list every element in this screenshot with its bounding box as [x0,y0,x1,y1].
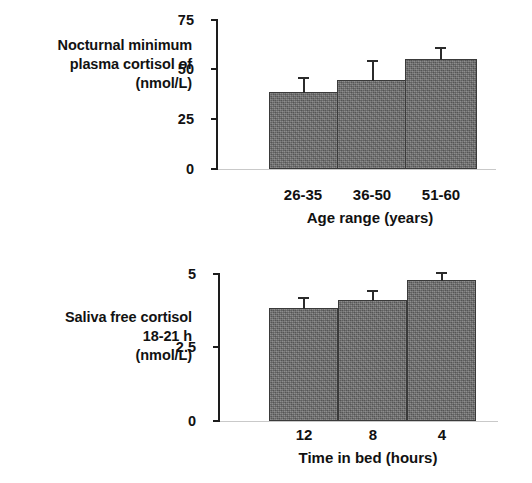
y-axis-caption-line-1: Nocturnal minimum [6,36,192,55]
y-tick-mark [213,346,220,348]
y-tick-label: 50 [178,62,194,76]
error-bar-cap-12 [298,297,309,299]
bar-4[interactable] [407,280,476,421]
x-axis-baseline [218,169,496,170]
y-tick-label: 25 [178,112,194,126]
error-bar-cap-51-60 [435,47,446,49]
bar-51-60[interactable] [405,59,477,169]
y-tick-label: 5 [188,267,196,281]
chart-panel-nocturnal-plasma-cortisol: Nocturnal minimum plasma cortisol of (nm… [0,0,532,240]
error-bar-cap-4 [436,272,447,274]
y-tick-mark [211,118,218,120]
y-tick-mark [211,68,218,70]
x-category-label-4: 4 [397,427,487,443]
plot-area: 0 2.5 5 [198,266,498,434]
y-axis-line [216,20,218,169]
y-tick-label: 2.5 [176,340,196,354]
y-tick-mark [213,420,220,422]
y-axis-caption: Saliva free cortisol 18-21 h (nmol/L) [6,308,192,365]
bar-36-50[interactable] [337,80,407,169]
error-bar-cap-26-35 [298,77,309,79]
x-axis-title: Time in bed (hours) [218,449,518,466]
error-bar-36-50 [372,60,374,81]
y-axis-caption-line-3: (nmol/L) [6,74,192,93]
x-axis-title: Age range (years) [220,209,520,226]
plot-area: 0 25 50 75 [196,12,496,177]
y-tick-mark [213,273,220,275]
y-tick-mark [211,168,218,170]
figure-canvas: Nocturnal minimum plasma cortisol of (nm… [0,0,532,483]
chart-panel-saliva-free-cortisol: Saliva free cortisol 18-21 h (nmol/L) 0 … [0,240,532,483]
bar-12[interactable] [269,308,338,421]
bar-26-35[interactable] [269,92,338,169]
bar-8[interactable] [338,300,407,421]
x-axis-baseline [220,421,498,422]
y-tick-mark [211,19,218,21]
y-axis-caption-line-2: 18-21 h [6,327,192,346]
error-bar-26-35 [303,77,305,93]
y-tick-label: 0 [186,162,194,176]
x-category-label-51-60: 51-60 [396,187,486,203]
y-tick-label: 75 [178,13,194,27]
y-axis-caption-line-1: Saliva free cortisol [6,308,192,327]
error-bar-cap-8 [367,290,378,292]
y-axis-caption-line-3: (nmol/L) [6,346,192,365]
y-axis-caption: Nocturnal minimum plasma cortisol of (nm… [6,36,192,93]
error-bar-cap-36-50 [367,60,378,62]
y-axis-caption-line-2: plasma cortisol of [6,55,192,74]
y-tick-label: 0 [188,414,196,428]
